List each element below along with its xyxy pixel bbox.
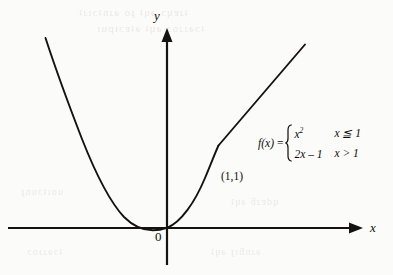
- left-curly-brace-icon: [285, 124, 292, 162]
- case-condition: x ≦ 1: [334, 126, 361, 140]
- y-axis-label: y: [154, 8, 160, 24]
- figure-canvas: ʇɹɐɥɔ ǝɥʇ ɟо ǝɹnʇɔıɹʇ ʇɔǝɹɹоɔ ǝɥʇ ǝʇɐɔıp…: [0, 0, 393, 275]
- formula-case-row: 2x – 1 x > 1: [294, 146, 361, 161]
- parabola-branch-curve: [46, 38, 219, 230]
- equals-sign: =: [276, 137, 286, 149]
- x-axis-label: x: [370, 220, 376, 236]
- y-axis-arrow-icon: [162, 28, 173, 42]
- piecewise-formula: f(x) = x2 x ≦ 1 2x – 1 x > 1: [258, 124, 361, 162]
- case-condition: x > 1: [334, 147, 358, 159]
- x-axis-arrow-icon: [349, 223, 363, 234]
- function-name: f(x): [258, 137, 276, 149]
- formula-cases: x2 x ≦ 1 2x – 1 x > 1: [294, 126, 361, 161]
- formula-case-row: x2 x ≦ 1: [294, 126, 361, 141]
- case-expression: 2x – 1: [294, 146, 334, 160]
- origin-label: 0: [155, 229, 162, 245]
- corner-point-label: (1,1): [221, 170, 243, 182]
- case-expression: x2: [294, 126, 334, 140]
